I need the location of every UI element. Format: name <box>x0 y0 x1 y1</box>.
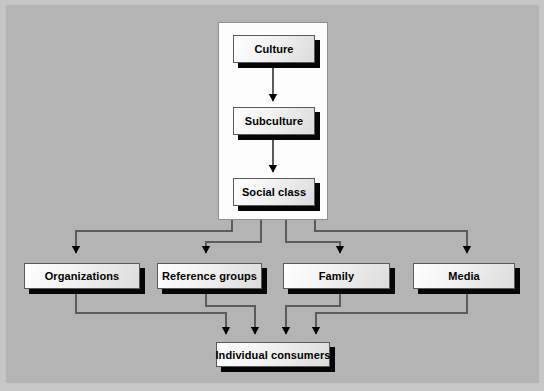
node-social-class[interactable]: Social class <box>233 178 315 206</box>
node-reference-groups[interactable]: Reference groups <box>157 263 262 289</box>
node-culture[interactable]: Culture <box>233 35 315 63</box>
node-subculture[interactable]: Subculture <box>233 107 315 135</box>
node-media[interactable]: Media <box>413 263 515 289</box>
node-family[interactable]: Family <box>283 263 390 289</box>
node-organizations[interactable]: Organizations <box>24 263 140 289</box>
node-individual-consumers[interactable]: Individual consumers <box>216 342 330 367</box>
diagram-canvas: Culture Subculture Social class Organiza… <box>0 0 544 391</box>
